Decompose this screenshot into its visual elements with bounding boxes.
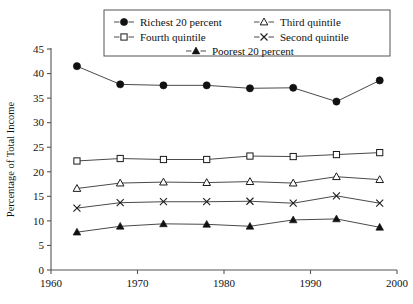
y-tick-label: 35 [33, 92, 45, 104]
legend-marker-fourth-quintile [121, 34, 127, 40]
data-point [246, 85, 253, 92]
x-tick-group: 19601970198019902000 [40, 270, 409, 289]
y-axis-title: Percentage of Total Income [5, 101, 16, 217]
data-point [160, 178, 168, 185]
data-point [247, 153, 253, 159]
axes-group: 05101520253035404519601970198019902000Pe… [5, 43, 409, 289]
x-tick-label: 1960 [40, 277, 63, 289]
x-tick-label: 1990 [300, 277, 323, 289]
data-point [117, 81, 124, 88]
y-tick-label: 15 [33, 190, 45, 202]
data-point [160, 220, 168, 227]
y-tick-label: 40 [33, 67, 45, 79]
x-tick-label: 1970 [127, 277, 150, 289]
chart-canvas: 05101520253035404519601970198019902000Pe… [0, 0, 413, 304]
legend-label-fourth-quintile: Fourth quintile [140, 31, 206, 43]
data-point [160, 82, 167, 89]
series-fourth-quintile [74, 150, 383, 165]
legend-label-richest-20-percent: Richest 20 percent [140, 16, 222, 28]
y-tick-label: 20 [33, 166, 45, 178]
series-second-quintile [73, 192, 383, 211]
y-tick-label: 25 [33, 141, 45, 153]
y-tick-label: 5 [39, 239, 45, 251]
series-poorest-20-percent [73, 215, 383, 235]
data-point [246, 178, 254, 185]
data-point [290, 84, 297, 91]
data-point [204, 156, 210, 162]
data-point [160, 156, 166, 162]
y-tick-group: 051015202530354045 [33, 43, 51, 276]
legend-label-third-quintile: Third quintile [280, 16, 341, 28]
y-tick-label: 0 [39, 264, 45, 276]
data-point [333, 173, 341, 180]
x-tick-label: 1980 [213, 277, 236, 289]
series-group [73, 63, 383, 235]
legend-label-second-quintile: Second quintile [280, 31, 349, 43]
data-point [333, 215, 341, 222]
income-distribution-chart: 05101520253035404519601970198019902000Pe… [0, 0, 413, 304]
data-point [290, 153, 296, 159]
data-point [376, 77, 383, 84]
y-tick-label: 45 [33, 43, 45, 55]
x-tick-label: 2000 [386, 277, 409, 289]
legend-marker-richest-20-percent [120, 18, 127, 25]
data-point [377, 150, 383, 156]
y-tick-label: 30 [33, 116, 45, 128]
y-tick-label: 10 [33, 215, 45, 227]
series-third-quintile [73, 173, 383, 192]
data-point [333, 151, 339, 157]
data-point [74, 158, 80, 164]
data-point [73, 63, 80, 70]
legend: Richest 20 percentThird quintileFourth q… [104, 10, 390, 57]
legend-label-poorest-20-percent: Poorest 20 percent [212, 45, 294, 57]
data-point [117, 155, 123, 161]
series-richest-20-percent [73, 63, 383, 106]
data-point [203, 82, 210, 89]
data-point [333, 98, 340, 105]
